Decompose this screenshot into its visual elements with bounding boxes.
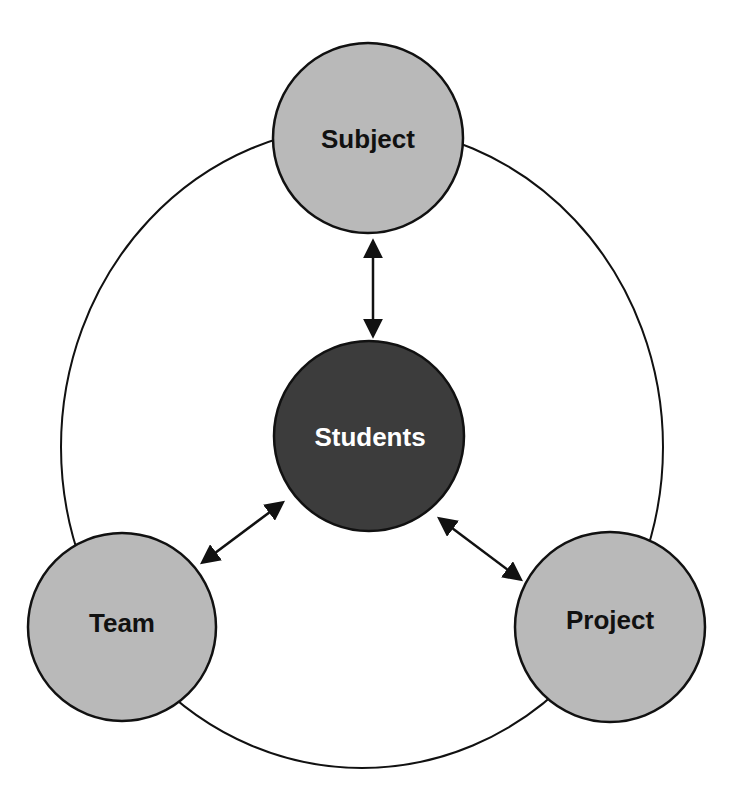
- team-label: Team: [89, 608, 155, 638]
- node-project: Project: [515, 532, 705, 722]
- node-students: Students: [274, 341, 464, 531]
- subject-label: Subject: [321, 124, 415, 154]
- arrow-students-team: [203, 503, 282, 562]
- arrow-students-project: [440, 519, 520, 579]
- project-label: Project: [566, 605, 654, 635]
- diagram-canvas: Subject Students Team Project: [0, 0, 742, 798]
- students-label: Students: [314, 422, 425, 452]
- node-subject: Subject: [273, 43, 463, 233]
- node-team: Team: [28, 533, 216, 721]
